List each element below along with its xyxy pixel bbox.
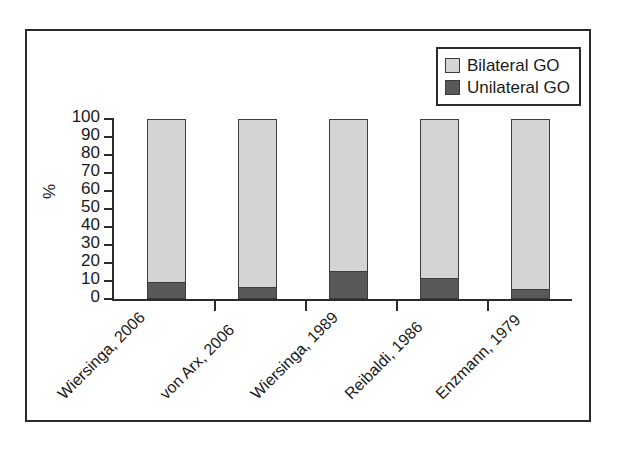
x-tick-4 [487,300,489,311]
y-tick-70: 70 [104,172,113,174]
y-tick-label-100: 100 [72,108,100,126]
bar-segment-bilateral [239,120,276,287]
bar-segment-bilateral [148,120,185,282]
chart-legend: Bilateral GO Unilateral GO [436,47,581,106]
bar-von-arx-2006[interactable] [238,119,277,299]
y-tick-30: 30 [104,244,113,246]
legend-item-unilateral: Unilateral GO [445,76,570,98]
legend-item-bilateral: Bilateral GO [445,54,570,76]
y-tick-90: 90 [104,136,113,138]
y-tick-10: 10 [104,280,113,282]
bar-reibaldi-1986[interactable] [420,119,459,299]
x-tick-3 [396,300,398,311]
y-tick-20: 20 [104,262,113,264]
y-tick-label-30: 30 [81,234,100,252]
y-tick-label-20: 20 [81,252,100,270]
y-tick-80: 80 [104,154,113,156]
bar-segment-unilateral [148,282,185,298]
y-tick-label-40: 40 [81,216,100,234]
y-tick-100: 100 [104,118,113,120]
legend-label-unilateral: Unilateral GO [467,79,570,96]
y-tick-50: 50 [104,208,113,210]
bar-wiersinga-2006[interactable] [147,119,186,299]
plot-area: 100 90 80 70 60 50 40 30 20 10 0 [112,119,572,299]
bar-segment-bilateral [330,120,367,271]
bar-segment-bilateral [512,120,549,289]
legend-label-bilateral: Bilateral GO [467,57,560,74]
bar-segment-unilateral [330,271,367,298]
y-tick-label-0: 0 [91,288,100,306]
y-tick-label-90: 90 [81,126,100,144]
bar-segment-unilateral [512,289,549,298]
bar-enzmann-1979[interactable] [511,119,550,299]
x-label-von-arx-2006: von Arx, 2006 [157,322,237,402]
bar-wiersinga-1989[interactable] [329,119,368,299]
legend-swatch-unilateral [445,80,460,95]
x-label-wiersinga-1989: Wiersinga, 1989 [248,309,341,402]
x-tick-1 [214,300,216,311]
bar-segment-unilateral [421,278,458,298]
y-tick-label-80: 80 [81,144,100,162]
x-label-reibaldi-1986: Reibaldi, 1986 [342,319,426,403]
figure-frame: Bilateral GO Unilateral GO % 100 90 80 7… [25,29,591,422]
bar-segment-bilateral [421,120,458,278]
x-label-enzmann-1979: Enzmann, 1979 [433,312,524,403]
y-tick-label-70: 70 [81,162,100,180]
y-tick-label-60: 60 [81,180,100,198]
x-label-wiersinga-2006: Wiersinga, 2006 [55,309,148,402]
y-tick-60: 60 [104,190,113,192]
legend-swatch-bilateral [445,58,460,73]
y-tick-label-10: 10 [81,270,100,288]
bar-segment-unilateral [239,287,276,298]
y-tick-label-50: 50 [81,198,100,216]
y-tick-0: 0 [104,298,113,300]
x-axis-line [112,299,572,301]
y-tick-40: 40 [104,226,113,228]
x-tick-2 [305,300,307,311]
y-axis-title: % [41,184,58,199]
